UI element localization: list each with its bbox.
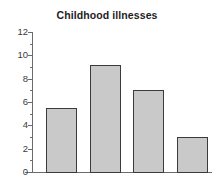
bar bbox=[177, 137, 208, 173]
bar-series bbox=[0, 0, 214, 193]
bar bbox=[133, 90, 164, 173]
bar-chart: Childhood illnesses 121086420 bbox=[0, 0, 214, 193]
bar bbox=[90, 65, 121, 173]
bar bbox=[46, 108, 77, 173]
